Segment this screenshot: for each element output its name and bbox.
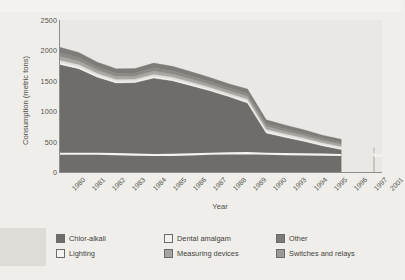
- y-axis-title: Consumption (metric tons): [21, 36, 30, 166]
- white-contour-line: [60, 153, 341, 155]
- y-tick-2000: 2000: [41, 46, 57, 55]
- x-tick-1982: 1982: [111, 176, 127, 192]
- legend-label: Switches and relays: [289, 249, 355, 258]
- legend-swatch-icon: [56, 249, 65, 258]
- legend-swatch-icon: [276, 249, 285, 258]
- legend-swatch-icon: [56, 234, 65, 243]
- x-tick-1987: 1987: [211, 176, 227, 192]
- legend-item-measuring-devices: Measuring devices: [164, 249, 276, 258]
- x-tick-1993: 1993: [292, 176, 308, 192]
- x-tick-1983: 1983: [131, 176, 147, 192]
- stacked-area-svg: [60, 20, 382, 172]
- y-tick-0: 0: [53, 168, 57, 177]
- plot-clip: [60, 20, 382, 172]
- legend-label: Chlor-alkali: [69, 234, 106, 243]
- legend-swatch-icon: [276, 234, 285, 243]
- y-axis: 2500 2000 1500 1000 500 0: [25, 14, 57, 178]
- legend-swatch-icon: [164, 234, 173, 243]
- legend-label: Dental amalgam: [177, 234, 231, 243]
- x-tick-1989: 1989: [252, 176, 268, 192]
- scan-corner-smudge: [0, 228, 46, 266]
- legend-label: Lighting: [69, 249, 95, 258]
- plot-area: [59, 20, 382, 173]
- x-tick-1985: 1985: [171, 176, 187, 192]
- x-tick-1986: 1986: [191, 176, 207, 192]
- y-tick-1000: 1000: [41, 107, 57, 116]
- y-tick-2500: 2500: [41, 16, 57, 25]
- legend-item-switches-and-relays: Switches and relays: [276, 249, 355, 258]
- legend-label: Measuring devices: [177, 249, 239, 258]
- y-tick-1500: 1500: [41, 76, 57, 85]
- x-tick-1990: 1990: [272, 176, 288, 192]
- x-tick-1994: 1994: [312, 176, 328, 192]
- x-axis-title: Year: [59, 202, 381, 211]
- legend-label: Other: [289, 234, 307, 243]
- x-tick-1981: 1981: [91, 176, 107, 192]
- x-tick-1984: 1984: [151, 176, 167, 192]
- legend-item-dental-amalgam: Dental amalgam: [164, 234, 276, 243]
- legend-item-other: Other: [276, 234, 355, 243]
- x-tick-2001: 2001: [389, 176, 405, 192]
- x-tick-1988: 1988: [232, 176, 248, 192]
- scan-edge-top: [0, 0, 402, 12]
- y-tick-500: 500: [45, 137, 57, 146]
- legend-swatch-icon: [164, 249, 173, 258]
- x-tick-1995: 1995: [332, 176, 348, 192]
- x-tick-1980: 1980: [71, 176, 87, 192]
- x-tick-1997: 1997: [372, 176, 388, 192]
- legend-item-lighting: Lighting: [56, 249, 164, 258]
- legend-item-chlor-alkali: Chlor-alkali: [56, 234, 164, 243]
- chart-legend: Chlor-alkali Dental amalgam Other Lighti…: [56, 231, 348, 263]
- x-tick-1996: 1996: [352, 176, 368, 192]
